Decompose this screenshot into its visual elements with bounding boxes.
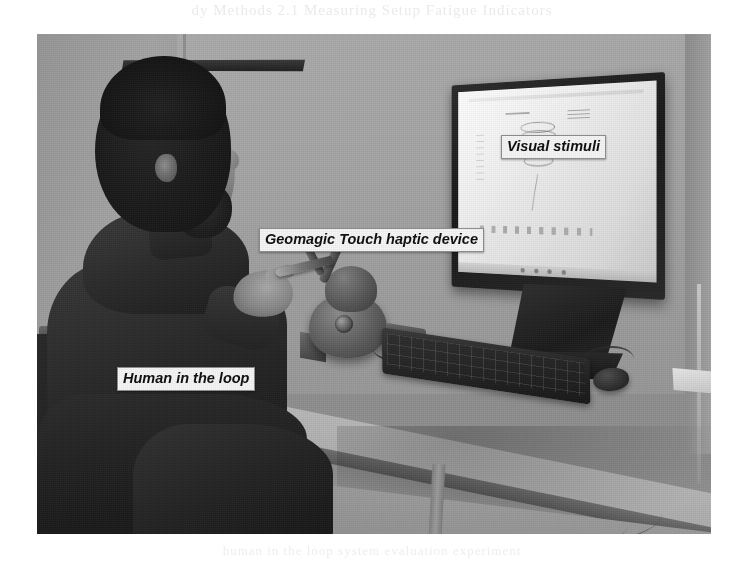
- figure-photograph: Visual stimuli Geomagic Touch haptic dev…: [37, 34, 711, 534]
- floor-cable-b: [447, 504, 627, 534]
- monitor-screen: [458, 80, 656, 282]
- annotation-label-haptic-device: Geomagic Touch haptic device: [259, 228, 484, 252]
- annotation-label-human-in-the-loop: Human in the loop: [117, 367, 255, 391]
- desk-paper-right: [672, 368, 711, 394]
- screen-glare: [458, 80, 656, 282]
- person-lap: [133, 424, 333, 534]
- haptic-device-dome: [325, 266, 377, 312]
- haptic-device-joint: [335, 315, 353, 333]
- monitor: [452, 72, 665, 300]
- page-bleed-bottom: human in the loop system evaluation expe…: [0, 543, 744, 559]
- page-bleed-top: dy Methods 2.1 Measuring Setup Fatigue I…: [0, 2, 744, 19]
- annotation-label-visual-stimuli: Visual stimuli: [501, 135, 606, 159]
- person-ear: [155, 154, 177, 182]
